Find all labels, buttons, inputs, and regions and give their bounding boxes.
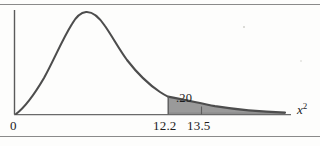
paper-speck <box>300 60 302 62</box>
x-axis-title-exponent: 2 <box>303 101 308 111</box>
tail-area-label: .20 <box>176 91 192 106</box>
x-axis-origin-label: 0 <box>10 118 17 134</box>
x-axis-title: x2 <box>297 101 307 118</box>
x-axis-tick-label-13-5: 13.5 <box>187 118 211 134</box>
paper-speck <box>243 26 245 28</box>
figure-container: 0 12.2 13.5 .20 x2 <box>0 0 320 146</box>
x-axis-tick-label-12-2: 12.2 <box>153 118 177 134</box>
